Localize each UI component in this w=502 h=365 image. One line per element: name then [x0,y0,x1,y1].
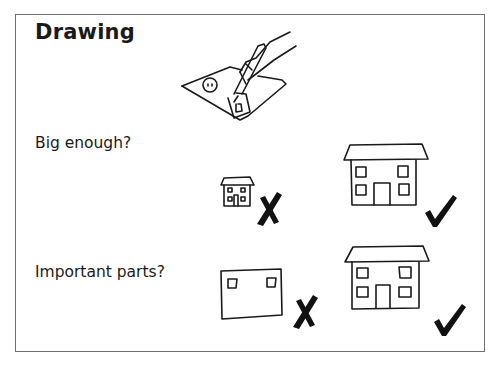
incomplete-house-icon [219,267,285,321]
check-icon [423,193,459,229]
small-house-icon [220,176,256,210]
cross-icon [255,192,285,228]
hand-drawing-icon [178,24,298,129]
large-house-icon [342,143,432,211]
slide-title: Drawing [35,20,135,44]
complete-house-icon [343,245,433,315]
check-icon [432,302,468,338]
question-big-enough: Big enough? [35,134,131,152]
question-important-parts: Important parts? [35,263,165,281]
cross-icon [291,295,321,331]
